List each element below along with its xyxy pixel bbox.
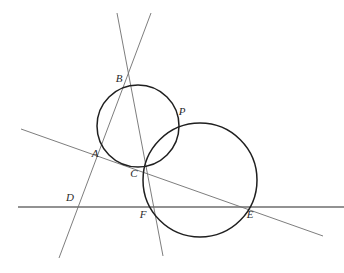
point-label-p: P <box>178 105 186 117</box>
point-label-e: E <box>246 208 254 220</box>
point-label-c: C <box>130 167 138 179</box>
geometry-diagram: B P A C D F E <box>0 0 344 273</box>
point-label-b: B <box>116 72 123 84</box>
diagram-background <box>0 0 344 273</box>
point-label-a: A <box>91 147 99 159</box>
point-label-d: D <box>65 191 74 203</box>
point-label-f: F <box>139 208 147 220</box>
